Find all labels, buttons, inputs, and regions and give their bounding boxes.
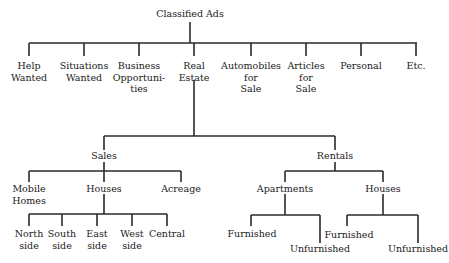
node-sales-houses: Houses [86,183,122,195]
node-automobiles-for-sale: Automobiles for Sale [221,60,281,95]
node-rentals: Rentals [317,150,353,162]
node-classified-ads: Classified Ads [156,8,224,20]
node-help-wanted: Help Wanted [11,60,47,83]
node-south-side: South side [48,228,76,251]
node-etc: Etc. [406,60,425,72]
node-acreage: Acreage [161,183,201,195]
node-real-estate: Real Estate [179,60,210,83]
node-sales: Sales [91,150,117,162]
node-situations-wanted: Situations Wanted [60,60,109,83]
connector-lines [0,0,449,263]
node-west-side: West side [120,228,143,251]
node-houses-furnished: Furnished [324,229,373,241]
node-apartments-furnished: Furnished [227,228,276,240]
node-apartments: Apartments [257,183,313,195]
node-central: Central [149,228,185,240]
node-apartments-unfurnished: Unfurnished [290,243,350,255]
node-east-side: East side [86,228,107,251]
node-rental-houses: Houses [365,183,401,195]
node-articles-for-sale: Articles for Sale [287,60,324,95]
node-business-opportunities: Business Opportuni- ties [113,60,166,95]
node-personal: Personal [340,60,382,72]
node-north-side: North side [15,228,44,251]
node-houses-unfurnished: Unfurnished [388,243,448,255]
classified-ads-tree-diagram: Classified Ads Help Wanted Situations Wa… [0,0,449,263]
node-mobile-homes: Mobile Homes [12,183,46,206]
